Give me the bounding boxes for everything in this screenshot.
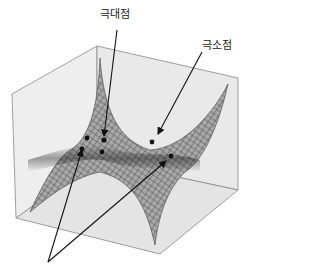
point-local-max-base — [100, 150, 105, 155]
label-local-max: 극대점 — [100, 5, 130, 21]
point-local-max — [101, 137, 106, 142]
point-local-min — [150, 140, 155, 145]
point-saddle-right — [169, 154, 174, 159]
point-saddle-left — [85, 136, 90, 141]
label-local-min: 극소점 — [202, 36, 232, 52]
